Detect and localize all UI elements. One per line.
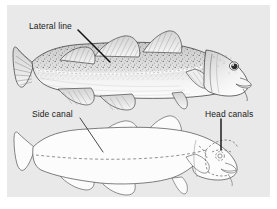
label-head-canals: Head canals: [205, 110, 253, 119]
upper-fish-caudal-fin: [13, 47, 33, 87]
cod-illustration-artwork: [0, 0, 277, 209]
lower-fish-body-outline: [33, 127, 237, 184]
upper-fish-group: [13, 31, 251, 110]
label-lateral-line: Lateral line: [29, 22, 72, 31]
label-side-canal: Side canal: [32, 110, 73, 119]
lower-fish-pelvic-fin: [172, 177, 187, 194]
lower-fish-group: [14, 116, 238, 195]
figure-root: Lateral line Side canal Head canals: [0, 0, 277, 209]
upper-fish-eye: [229, 62, 238, 70]
lower-fish-caudal-fin: [14, 132, 34, 170]
